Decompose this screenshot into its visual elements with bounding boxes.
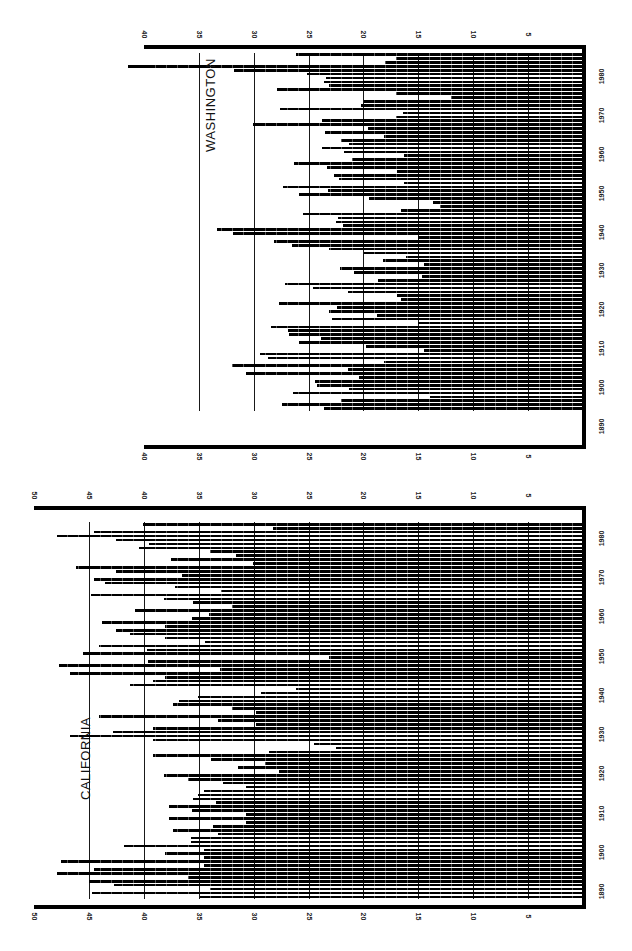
bar [246, 372, 583, 375]
gridline [374, 53, 375, 411]
bar [130, 633, 583, 636]
bar [89, 880, 583, 883]
bar [113, 731, 583, 734]
value-tick-label: 25 [305, 450, 312, 464]
gridline [528, 53, 529, 411]
year-tick-label: 1910 [598, 337, 605, 361]
gridline [199, 522, 200, 899]
gridline [561, 522, 562, 899]
gridline [462, 522, 463, 899]
bar [334, 174, 583, 177]
gridline [473, 522, 474, 899]
bar [332, 318, 583, 321]
gridline [506, 522, 507, 899]
gridline [265, 53, 266, 411]
gridline [287, 53, 288, 411]
bar [204, 790, 583, 793]
value-tick-label: 50 [31, 489, 38, 503]
bar [204, 856, 583, 859]
bar [329, 248, 583, 251]
bar [153, 739, 583, 742]
gridline [407, 53, 408, 411]
bar [344, 151, 583, 154]
gridline [539, 522, 540, 899]
value-tick-label: 15 [415, 910, 422, 924]
value-tick-label: 15 [415, 450, 422, 464]
bar [114, 884, 583, 887]
bar [383, 259, 583, 262]
bar [314, 743, 583, 746]
gridline [330, 53, 331, 411]
bar [164, 774, 583, 777]
bar [396, 116, 583, 119]
gridline [385, 522, 386, 899]
gridline [495, 522, 496, 899]
gridline [429, 522, 430, 899]
value-tick-label: 40 [140, 910, 147, 924]
gridline [374, 522, 375, 899]
bar [329, 310, 583, 313]
washington-frame-bottom [144, 445, 585, 449]
washington-frame-top [144, 45, 585, 49]
bar [339, 178, 583, 181]
gridline [166, 522, 167, 899]
bar [322, 147, 583, 150]
bar [204, 864, 583, 867]
gridline [155, 522, 156, 899]
bar [348, 368, 583, 371]
gridline [45, 522, 46, 899]
bar [271, 326, 583, 329]
bar [268, 357, 583, 360]
gridline [484, 53, 485, 411]
year-tick-label: 1890 [598, 880, 605, 904]
bar [198, 794, 583, 797]
gridline [100, 522, 101, 899]
bar [378, 279, 583, 282]
value-tick-label: 50 [31, 910, 38, 924]
bar [192, 809, 583, 812]
gridline [506, 53, 507, 411]
gridline [78, 522, 79, 899]
gridline [352, 53, 353, 411]
bar [236, 554, 583, 557]
bar [59, 664, 583, 667]
gridline [287, 522, 288, 899]
gridline [155, 53, 156, 411]
bar [204, 849, 583, 852]
bar [418, 322, 583, 325]
bar [269, 751, 583, 754]
bar [261, 692, 583, 695]
gridline [188, 522, 189, 899]
gridline [56, 522, 57, 899]
gridline [429, 53, 430, 411]
bar [61, 860, 583, 863]
value-tick-label: 20 [360, 450, 367, 464]
gridline [319, 522, 320, 899]
bar [401, 209, 583, 212]
bar [128, 65, 583, 68]
gridline [363, 53, 364, 411]
bar [246, 821, 583, 824]
bar [256, 711, 583, 714]
bar [315, 380, 583, 383]
year-tick-label: 1940 [598, 220, 605, 244]
gridline [254, 53, 255, 411]
gridline [396, 53, 397, 411]
gridline [352, 522, 353, 899]
gridline [473, 53, 474, 411]
bar [424, 349, 583, 352]
value-tick-label: 10 [470, 450, 477, 464]
bar [317, 384, 583, 387]
gridline [298, 522, 299, 899]
value-tick-label: 35 [195, 910, 202, 924]
bar [404, 154, 583, 157]
bar [279, 770, 583, 773]
bar [171, 558, 583, 561]
gridline [341, 522, 342, 899]
gridline [418, 522, 419, 899]
value-tick-label: 40 [140, 489, 147, 503]
gridline [363, 522, 364, 899]
bar [283, 186, 583, 189]
bar [193, 601, 583, 604]
year-tick-label: 1900 [598, 840, 605, 864]
